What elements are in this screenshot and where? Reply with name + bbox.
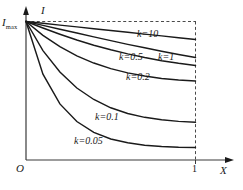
curve-label-k10: k=10 (137, 29, 158, 39)
x-axis-label: X (220, 165, 227, 176)
curve-label-k005: k=0.05 (74, 136, 103, 146)
chart-figure: I Imax O 1 X k=10 k=0.5 k=1 k=0.2 k=0.1 … (0, 0, 243, 190)
x-tick-label-1: 1 (192, 164, 197, 174)
curve-label-k05: k=0.5 (119, 52, 143, 62)
imax-subscript: max (6, 23, 18, 30)
y-axis-label: I (41, 5, 45, 16)
y-axis-arrowhead (23, 6, 29, 15)
curve-label-k1: k=1 (158, 52, 174, 62)
x-axis-arrowhead (225, 157, 234, 163)
curve-label-k02: k=0.2 (126, 72, 150, 82)
origin-label: O (16, 163, 24, 174)
curve-label-k01: k=0.1 (95, 112, 119, 122)
chart-plot-area (0, 0, 243, 190)
y-axis-imax-label: Imax (2, 17, 17, 31)
